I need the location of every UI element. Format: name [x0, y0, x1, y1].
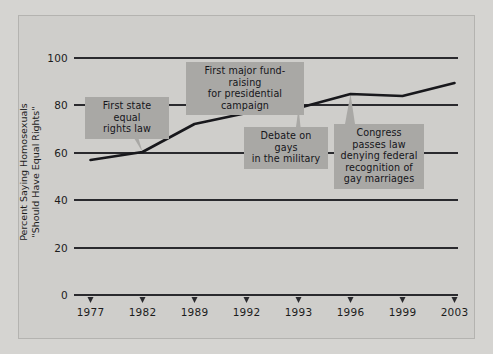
annotation-line: Congress passes law [339, 127, 419, 150]
xtick-label-1992: 1992 [224, 306, 270, 318]
annotation-first-state-equal-rights-law: First state equal rights law [85, 97, 169, 139]
y-axis-ticks [74, 58, 81, 295]
ytick-label-0: 0 [38, 289, 68, 301]
annotation-congress-passes-law: Congress passes law denying federal reco… [334, 124, 424, 189]
annotation-line: for presidential campaign [191, 88, 299, 111]
ytick-label-20: 20 [38, 242, 68, 254]
ytick-label-60: 60 [38, 147, 68, 159]
figure: 100 80 60 40 20 0 1977 1982 1989 1992 19… [0, 0, 493, 354]
annotation-line: gay marriages [339, 173, 419, 185]
ytick-label-80: 80 [38, 99, 68, 111]
x-axis-tick-markers [88, 297, 458, 303]
y-axis-title-line1: Percent Saying Homosexuals [18, 82, 30, 262]
annotation-line: First major fund-raising [191, 65, 299, 88]
annotation-line: in the military [249, 153, 323, 165]
y-axis-title: Percent Saying Homosexuals "Should Have … [18, 82, 42, 262]
annotation-line: First state equal [90, 100, 164, 123]
xtick-label-1982: 1982 [120, 306, 166, 318]
xtick-label-1996: 1996 [328, 306, 374, 318]
annotation-debate-on-gays-in-military: Debate on gays in the military [244, 127, 328, 169]
y-axis-title-line2: "Should Have Equal Rights" [30, 82, 42, 262]
pointer-marriage [345, 94, 355, 124]
annotation-line: rights law [90, 123, 164, 135]
ytick-label-100: 100 [38, 52, 68, 64]
ytick-label-40: 40 [38, 194, 68, 206]
xtick-label-1999: 1999 [380, 306, 426, 318]
xtick-label-2003: 2003 [432, 306, 478, 318]
annotation-line: Debate on gays [249, 130, 323, 153]
xtick-label-1993: 1993 [276, 306, 322, 318]
annotation-line: denying federal [339, 150, 419, 162]
annotation-first-major-fund-raising: First major fund-raising for presidentia… [186, 62, 304, 115]
annotation-line: recognition of [339, 162, 419, 174]
xtick-label-1977: 1977 [68, 306, 114, 318]
xtick-label-1989: 1989 [172, 306, 218, 318]
